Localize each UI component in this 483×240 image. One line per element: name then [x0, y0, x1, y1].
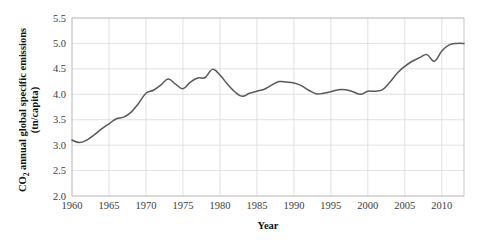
line-chart: 2.02.53.03.54.04.55.05.5 196019651970197… — [0, 0, 483, 240]
y-axis-tick-label: 2.5 — [53, 165, 66, 176]
y-axis-tick-label: 4.0 — [53, 89, 66, 100]
x-axis-tick-label: 2005 — [394, 200, 415, 211]
y-axis-tick-label: 5.5 — [53, 13, 66, 24]
x-axis-tick-label: 1995 — [320, 200, 341, 211]
y-axis-title-rest: annual global specific emissions — [17, 28, 28, 173]
y-axis-tick-label: 5.0 — [53, 38, 66, 49]
x-axis-tick-label: 2010 — [431, 200, 452, 211]
x-axis-tick-label: 1980 — [209, 200, 230, 211]
y-axis-title-line2: (tn/capita) — [29, 86, 41, 133]
y-axis-tick-label: 3.0 — [53, 140, 66, 151]
x-axis-tick-label: 1960 — [62, 200, 83, 211]
x-axis-tick-label: 1990 — [283, 200, 304, 211]
x-axis-tick-label: 1970 — [135, 200, 156, 211]
x-axis-tick-label: 2000 — [357, 200, 378, 211]
x-axis-tick-label: 1975 — [172, 200, 193, 211]
x-axis-tick-label: 1965 — [98, 200, 119, 211]
y-axis-tick-label: 4.5 — [53, 63, 66, 74]
x-axis-tick-label: 1985 — [246, 200, 267, 211]
y-axis-title-co: CO — [17, 176, 28, 192]
chart-container: 2.02.53.03.54.04.55.05.5 196019651970197… — [0, 0, 483, 240]
x-axis-title: Year — [258, 220, 279, 231]
y-axis-tick-label: 3.5 — [53, 114, 66, 125]
